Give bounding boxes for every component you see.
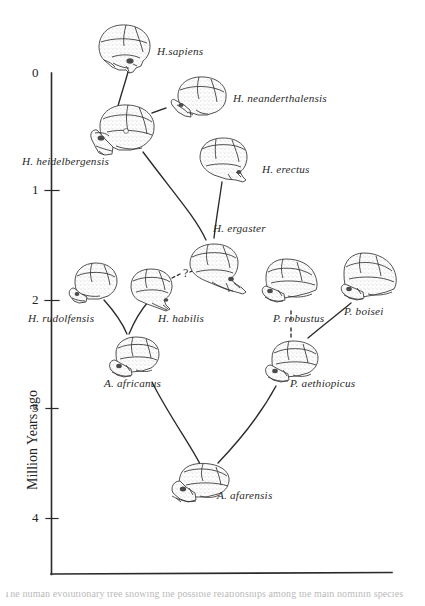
taxon-label-a-africanus: A. africanus <box>104 378 161 389</box>
taxon-label-p-robustus: P. robustus <box>273 313 324 324</box>
taxon-label-p-boisei: P. boisei <box>344 306 384 317</box>
skull-h-habilis <box>131 269 172 311</box>
skull-h-heidelbergensis <box>91 105 154 155</box>
taxon-label-h-sapiens: H.sapiens <box>157 46 203 57</box>
skull-h-ergaster <box>190 244 246 294</box>
caption-cutoff-text: The human evolutionary tree showing the … <box>4 592 403 599</box>
lineage-heidelbergensis-sapiens <box>118 72 128 106</box>
lineage-afarensis-africanus <box>152 382 200 464</box>
taxon-label-h-heidelbergensis: H. heidelbergensis <box>22 156 109 167</box>
lineage-connectors-layer <box>0 0 425 606</box>
question-mark-annotation: ? <box>183 267 188 279</box>
skull-a-africanus <box>110 337 159 377</box>
axes-layer <box>0 0 425 606</box>
taxon-label-h-habilis: H. habilis <box>158 313 204 324</box>
lineage-habilis-ergaster <box>172 274 180 278</box>
figure-canvas: 0 1 2 3 4 Million Years ago H.sapiens H.… <box>0 0 425 606</box>
skull-h-sapiens <box>99 25 150 73</box>
taxon-label-h-neanderthalensis: H. neanderthalensis <box>233 93 327 104</box>
taxon-label-p-aethiopicus: P. aethiopicus <box>290 378 355 389</box>
skull-h-erectus <box>200 138 247 182</box>
skull-p-boisei <box>341 253 396 300</box>
x-axis-line <box>51 573 392 575</box>
y-tick-label-0: 0 <box>32 66 39 79</box>
lineage-africanus-rudolfensis <box>104 300 127 334</box>
skull-p-aethiopicus <box>266 341 318 382</box>
skull-h-neanderthalensis <box>171 77 226 117</box>
lineage-habilis-ergaster-b <box>190 265 206 272</box>
taxon-label-h-erectus: H. erectus <box>262 164 310 175</box>
y-axis-title: Million Years ago <box>26 390 40 490</box>
lineage-ergaster-heidelbergensis <box>143 152 206 240</box>
lineage-africanus-habilis <box>129 302 148 334</box>
y-tick-label-4: 4 <box>32 511 39 524</box>
lineage-afarensis-aethiopicus <box>218 386 276 463</box>
y-tick-label-1: 1 <box>32 183 39 196</box>
taxon-label-h-rudolfensis: H. rudolfensis <box>28 313 94 324</box>
taxon-label-h-ergaster: H. ergaster <box>213 223 266 234</box>
lineage-heidelbergensis-neanderthalensis <box>152 108 166 113</box>
y-tick-label-2: 2 <box>32 293 39 306</box>
skull-p-robustus <box>262 259 317 302</box>
skull-h-rudolfensis <box>69 263 117 303</box>
caption-cutoff-strip: The human evolutionary tree showing the … <box>0 592 425 606</box>
skull-illustrations-layer <box>0 0 425 606</box>
taxon-label-a-afarensis: A. afarensis <box>217 490 272 501</box>
